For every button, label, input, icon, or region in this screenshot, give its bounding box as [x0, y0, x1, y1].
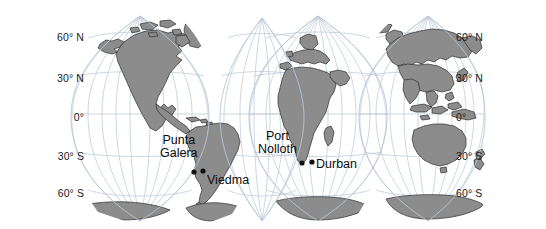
city-dot-viedma: [200, 168, 205, 173]
latitude-label-left-0: 60° N: [0, 31, 84, 43]
latitude-label-right-4: 60° S: [456, 187, 482, 199]
city-label-line: Viedma: [207, 174, 249, 187]
city-label-line: Durban: [316, 158, 357, 171]
city-label-viedma: Viedma: [207, 174, 249, 187]
city-label-durban: Durban: [316, 158, 357, 171]
latitude-label-left-3: 30° S: [0, 150, 84, 162]
latitude-label-right-0: 60° N: [456, 31, 483, 43]
city-dot-punta-galera: [191, 169, 196, 174]
city-label-port-nolloth: PortNolloth: [258, 130, 297, 156]
latitude-label-right-3: 30° S: [456, 150, 482, 162]
city-label-line: Nolloth: [258, 143, 297, 156]
land-north-america: [98, 20, 213, 134]
city-label-punta-galera: PuntaGalera: [160, 134, 198, 160]
city-label-line: Galera: [160, 147, 198, 160]
latitude-label-left-1: 30° N: [0, 72, 84, 84]
latitude-label-right-1: 30° N: [456, 72, 483, 84]
city-dot-port-nolloth: [299, 160, 304, 165]
latitude-label-right-2: 0°: [456, 111, 466, 123]
world-map-figure: 60° N30° N0°30° S60° S 60° N30° N0°30° S…: [0, 0, 546, 229]
land-antarctica: [76, 195, 484, 221]
city-dot-durban: [309, 159, 314, 164]
latitude-label-left-4: 60° S: [0, 187, 84, 199]
latitude-label-left-2: 0°: [0, 111, 84, 123]
